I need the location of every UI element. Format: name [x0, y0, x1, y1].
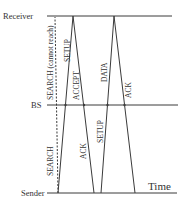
label-setup-1: SETUP — [63, 39, 72, 62]
label-setup-2: SETUP — [96, 120, 105, 143]
label-search-unreachable: SEARCH (cannot reach) — [46, 25, 55, 100]
arrow-tip-icon — [83, 104, 85, 106]
message-sequence-diagram: Receiver BS Sender SEARCH (cannot reach)… — [0, 0, 184, 206]
node-label-bs: BS — [31, 100, 42, 110]
arrow-tip-icon — [123, 104, 125, 106]
label-ack-2: ACK — [79, 143, 88, 159]
label-accept: ACCEPT — [72, 71, 81, 100]
arrow-tip-icon — [106, 104, 108, 106]
arrow-tip-icon — [64, 104, 66, 106]
label-data: DATA — [100, 62, 109, 82]
node-label-sender: Sender — [21, 188, 45, 198]
label-search: SEARCH — [46, 146, 55, 176]
label-ack-1: ACK — [124, 82, 133, 98]
node-label-receiver: Receiver — [3, 11, 33, 21]
time-axis-label: Time — [148, 180, 171, 192]
